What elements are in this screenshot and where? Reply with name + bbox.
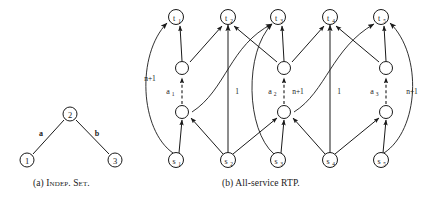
node-s5-label: s xyxy=(377,157,380,166)
edge-s1-to-relay-lower-1 xyxy=(179,120,182,153)
relay-lower-1 xyxy=(176,106,189,119)
node-t3-subscript: 3 xyxy=(280,18,283,24)
edge-weight-one-1: 1 xyxy=(235,87,239,96)
node-s2-label: s xyxy=(224,157,227,166)
node-s2 xyxy=(221,153,236,168)
node-t1 xyxy=(169,10,184,25)
node-t2-subscript: 2 xyxy=(230,18,233,24)
node-s1-subscript: 1 xyxy=(178,161,181,167)
caption-panel-b-prefix: (b) xyxy=(222,178,233,188)
caption-panel-a-body: Indep. Set. xyxy=(46,178,90,188)
edge-2-3 xyxy=(76,120,109,154)
node-t5-subscript: 5 xyxy=(383,18,386,24)
agent-label-a3-subscript: 3 xyxy=(376,91,379,97)
node-t5 xyxy=(374,10,389,25)
caption-panel-b-body: All-service RTP. xyxy=(235,178,299,188)
node-t1-subscript: 1 xyxy=(178,18,181,24)
relay-lower-2 xyxy=(278,106,291,119)
edge-a-label: a xyxy=(39,129,43,138)
agent-label-a1-subscript: 1 xyxy=(172,91,175,97)
node-s5 xyxy=(374,153,389,168)
edge-s3-to-relay-lower-2 xyxy=(281,120,284,153)
node-s3-label: s xyxy=(274,157,277,166)
panel-a-graph: 2 1 3 a b xyxy=(20,107,122,167)
node-s2-subscript: 2 xyxy=(230,161,233,167)
agent-label-group: a 1 a 2 a 3 xyxy=(166,87,378,97)
agent-label-a2-subscript: 2 xyxy=(274,91,277,97)
agent-label-a1: a xyxy=(166,87,170,96)
edge-relay-upper-2-to-t4 xyxy=(292,26,324,62)
agent-label-a3: a xyxy=(370,87,374,96)
sink-node-group: t 1 t 2 t 3 t 4 t 5 xyxy=(169,10,389,25)
edge-b-label: b xyxy=(95,129,100,138)
source-node-group: s 1 s 2 s 3 s 4 s 5 xyxy=(169,153,389,168)
node-s1 xyxy=(169,153,184,168)
figure-container: 2 1 3 a b xyxy=(0,0,435,214)
node-t3 xyxy=(271,10,286,25)
relay-upper-2 xyxy=(278,62,291,75)
edge-s5-to-relay-lower-3 xyxy=(383,120,386,153)
caption-panel-b: (b) All-service RTP. xyxy=(222,178,300,188)
edge-relay-upper-1-to-t1 xyxy=(180,26,182,61)
node-s4-label: s xyxy=(326,157,329,166)
edge-weight-np1-right: n+1 xyxy=(406,87,418,96)
edge-relay-upper-3-to-t4 xyxy=(336,26,379,62)
edge-s4-to-relay-lower-3 xyxy=(335,118,379,154)
node-s1-label: s xyxy=(172,157,175,166)
edge-relay-upper-2-to-t3 xyxy=(282,26,284,61)
node-3-label: 3 xyxy=(113,156,117,166)
edge-weight-one-2: 1 xyxy=(337,87,341,96)
relay-node-group xyxy=(176,62,393,119)
arc-relay2-to-t5 xyxy=(294,24,374,112)
edge-s2-to-relay-lower-2 xyxy=(233,118,277,154)
node-s3 xyxy=(271,153,286,168)
edge-s4-to-relay-lower-2 xyxy=(293,118,325,154)
node-t2 xyxy=(221,10,236,25)
edge-s2-to-relay-lower-1 xyxy=(191,118,223,154)
node-t4-subscript: 4 xyxy=(332,18,335,24)
caption-panel-a: (a) Indep. Set. xyxy=(33,178,90,188)
edge-weight-np1-left: n+1 xyxy=(144,74,156,83)
panel-b-network: t 1 t 2 t 3 t 4 t 5 xyxy=(144,10,418,168)
node-s4 xyxy=(323,153,338,168)
node-1-label: 1 xyxy=(25,156,29,166)
relay-upper-1 xyxy=(176,62,189,75)
agent-label-a2: a xyxy=(268,87,272,96)
arc-relay1-to-t3 xyxy=(192,24,272,112)
node-s5-subscript: 5 xyxy=(383,161,386,167)
node-2-label: 2 xyxy=(68,110,72,120)
edge-relay-upper-1-to-t2 xyxy=(190,26,222,62)
node-t4 xyxy=(323,10,338,25)
edge-weight-np1-mid1: n+1 xyxy=(292,87,304,96)
node-s3-subscript: 3 xyxy=(280,161,283,167)
edge-relay-upper-3-to-t5 xyxy=(384,26,386,61)
caption-panel-a-prefix: (a) xyxy=(33,178,44,188)
edge-2-1 xyxy=(33,120,64,154)
relay-lower-3 xyxy=(380,106,393,119)
node-s4-subscript: 4 xyxy=(332,161,335,167)
relay-upper-3 xyxy=(380,62,393,75)
